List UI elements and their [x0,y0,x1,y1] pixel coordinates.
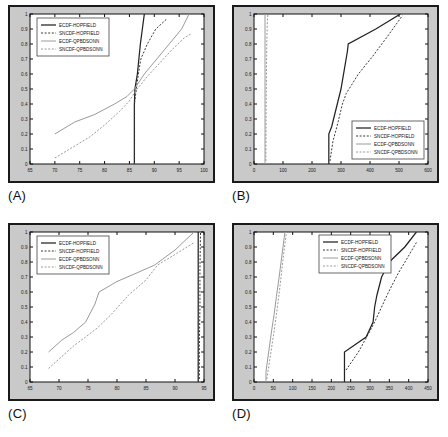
legend-label: SNCDF-HOPFIELD [59,249,100,254]
x-tick-label: 100 [279,168,287,173]
x-tick-label: 0 [253,168,256,173]
y-tick-label: 0.3 [21,335,28,340]
figure-panel-grid: 6570758085909510000.10.20.30.40.50.60.70… [0,0,448,437]
y-tick-label: 0.6 [21,72,28,77]
legend-d: ECDF-HOPFIELDSNCDF-HOPFIELDECDF-QPBDSONN… [319,235,391,273]
panel-caption-c: (C) [8,406,27,421]
y-tick-label: 0 [25,380,28,385]
y-tick-label: 0.5 [245,87,252,92]
y-tick-label: 0.1 [245,365,252,370]
chart-panel-d: 05010015020025030035040045000.10.20.30.4… [224,218,448,437]
y-tick-label: 0.6 [245,290,252,295]
plot-svg-c: 6570758085909500.10.20.30.40.50.60.70.80… [10,225,213,399]
x-tick-label: 50 [271,386,277,391]
y-tick-label: 0.8 [245,42,252,47]
y-tick-label: 0 [25,162,28,167]
y-tick-label: 0.9 [245,245,252,250]
y-tick-label: 0.2 [21,350,28,355]
x-tick-label: 65 [27,386,33,391]
x-tick-label: 85 [143,386,149,391]
legend-label: ECDF-HOPFIELD [341,240,379,245]
y-tick-label: 0.9 [21,27,28,32]
x-tick-label: 300 [337,168,345,173]
x-tick-label: 95 [177,168,183,173]
y-tick-label: 0.9 [245,27,252,32]
y-tick-label: 0.9 [21,245,28,250]
plot-svg-a: 6570758085909510000.10.20.30.40.50.60.70… [10,7,213,181]
plot-frame-b: 010020030040050060000.10.20.30.40.50.60.… [232,5,439,183]
y-tick-label: 0.4 [21,102,28,107]
y-tick-label: 0.2 [245,132,252,137]
legend-label: SNCDF-QPBDSONN [59,47,103,52]
x-tick-label: 400 [405,386,413,391]
y-tick-label: 0.7 [245,275,252,280]
legend-label: SNCDF-HOPFIELD [374,134,415,139]
x-tick-label: 200 [308,168,316,173]
plot-svg-b: 010020030040050060000.10.20.30.40.50.60.… [234,7,437,181]
y-tick-label: 1 [25,12,28,17]
x-tick-label: 70 [52,168,58,173]
legend-label: ECDF-HOPFIELD [374,126,412,131]
x-tick-label: 75 [85,386,91,391]
legend-label: ECDF-HOPFIELD [59,241,97,246]
y-tick-label: 1 [249,230,252,235]
y-tick-label: 0.1 [21,147,28,152]
y-tick-label: 0.7 [21,275,28,280]
x-tick-label: 500 [395,168,403,173]
x-tick-label: 200 [327,386,335,391]
plot-frame-d: 05010015020025030035040045000.10.20.30.4… [232,223,439,401]
chart-panel-b: 010020030040050060000.10.20.30.40.50.60.… [224,0,448,218]
legend-label: SNCDF-HOPFIELD [59,31,100,36]
x-tick-label: 250 [347,386,355,391]
legend-c: ECDF-HOPFIELDSNCDF-HOPFIELDECDF-QPBDSONN… [37,236,109,274]
legend-label: SNCDF-QPBDSONN [59,265,103,270]
x-tick-label: 600 [424,168,432,173]
legend-label: SNCDF-QPBDSONN [341,264,385,269]
y-tick-label: 0.5 [21,87,28,92]
y-tick-label: 0.6 [21,290,28,295]
y-tick-label: 0.2 [245,350,252,355]
legend-label: ECDF-QPBDSONN [59,257,99,262]
y-tick-label: 0.5 [21,305,28,310]
y-tick-label: 0.5 [245,305,252,310]
panel-caption-d: (D) [232,406,251,421]
x-tick-label: 300 [366,386,374,391]
plot-frame-c: 6570758085909500.10.20.30.40.50.60.70.80… [8,223,215,401]
y-tick-label: 0.1 [21,365,28,370]
x-tick-label: 75 [77,168,83,173]
plot-svg-d: 05010015020025030035040045000.10.20.30.4… [234,225,437,399]
y-tick-label: 0.3 [245,117,252,122]
y-tick-label: 1 [25,230,28,235]
y-tick-label: 0.4 [21,320,28,325]
legend-label: ECDF-QPBDSONN [59,39,99,44]
panel-caption-b: (B) [232,188,250,203]
legend-label: ECDF-HOPFIELD [59,23,97,28]
legend-b: ECDF-HOPFIELDSNCDF-HOPFIELDECDF-QPBDSONN… [352,121,424,159]
y-tick-label: 0 [249,380,252,385]
x-tick-label: 90 [152,168,158,173]
y-tick-label: 0.7 [21,57,28,62]
x-tick-label: 80 [114,386,120,391]
y-tick-label: 0.8 [245,260,252,265]
x-tick-label: 70 [56,386,62,391]
x-tick-label: 95 [201,386,207,391]
x-tick-label: 350 [385,386,393,391]
panel-caption-a: (A) [8,188,26,203]
y-tick-label: 0.6 [245,72,252,77]
y-tick-label: 0.1 [245,147,252,152]
y-tick-label: 0.3 [245,335,252,340]
y-tick-label: 0.4 [245,102,252,107]
y-tick-label: 0.7 [245,57,252,62]
legend-label: ECDF-QPBDSONN [374,142,414,147]
x-tick-label: 0 [253,386,256,391]
x-tick-label: 150 [308,386,316,391]
y-tick-label: 1 [249,12,252,17]
y-tick-label: 0.4 [245,320,252,325]
y-tick-label: 0.3 [21,117,28,122]
chart-panel-c: 6570758085909500.10.20.30.40.50.60.70.80… [0,218,224,437]
legend-a: ECDF-HOPFIELDSNCDF-HOPFIELDECDF-QPBDSONN… [37,18,109,56]
plot-frame-a: 6570758085909510000.10.20.30.40.50.60.70… [8,5,215,183]
x-tick-label: 65 [27,168,33,173]
x-tick-label: 400 [366,168,374,173]
y-tick-label: 0.8 [21,260,28,265]
